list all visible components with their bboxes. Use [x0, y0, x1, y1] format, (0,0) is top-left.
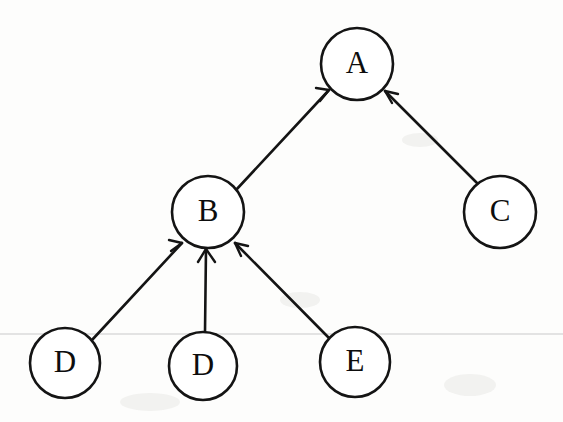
node-d2[interactable]: D — [169, 332, 237, 400]
edge-d2-to-b — [198, 249, 215, 332]
edge-c-to-a — [385, 91, 478, 184]
edge-b-to-a — [236, 88, 329, 190]
node-a-label: A — [346, 45, 369, 80]
node-e[interactable]: E — [320, 327, 390, 397]
figure-canvas: A B C D D E — [0, 0, 563, 422]
node-b[interactable]: B — [172, 176, 244, 248]
node-d1[interactable]: D — [30, 328, 100, 398]
node-c-label: C — [490, 193, 511, 228]
node-b-label: B — [198, 193, 219, 228]
directed-graph: A B C D D E — [0, 0, 563, 422]
node-e-label: E — [346, 343, 365, 378]
node-d1-label: D — [54, 344, 76, 379]
node-c[interactable]: C — [464, 176, 536, 248]
node-d2-label: D — [192, 347, 214, 382]
node-a[interactable]: A — [321, 28, 393, 100]
edge-e-to-b — [235, 243, 329, 338]
edge-d1-to-b — [92, 240, 182, 340]
